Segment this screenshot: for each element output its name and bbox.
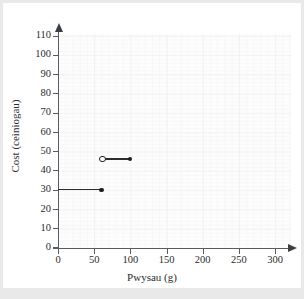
y-tick-label-10: 10 [21,223,51,234]
y-tick-label-50: 50 [21,146,51,157]
y-tick-label-80: 80 [21,88,51,99]
y-tick-label-0: 0 [21,242,51,253]
x-tick-150 [167,249,168,254]
y-tick-80 [53,93,58,94]
y-tick-label-20: 20 [21,204,51,215]
chart-screenshot: 0 10 20 30 40 50 60 70 80 90 100 110 0 5… [0,0,304,299]
y-tick-label-30: 30 [21,184,51,195]
y-tick-10 [53,228,58,229]
x-tick-label-250: 250 [219,254,259,265]
y-tick-label-70: 70 [21,107,51,118]
x-tick-label-200: 200 [183,254,223,265]
x-tick-300 [275,249,276,254]
x-tick-100 [130,249,131,254]
y-axis-arrow-icon [55,23,63,32]
y-tick-label-40: 40 [21,165,51,176]
x-tick-250 [239,249,240,254]
x-axis-title: Pwysau (g) [3,271,301,283]
y-tick-60 [53,132,58,133]
data-segment-band-1 [58,189,101,191]
y-axis-line [58,31,59,249]
x-tick-0 [58,249,59,254]
x-tick-label-0: 0 [38,254,78,265]
data-point-closed-band-1-end [99,188,103,192]
y-tick-label-100: 100 [21,49,51,60]
y-tick-110 [53,36,58,37]
x-axis-line [58,248,290,249]
x-tick-50 [94,249,95,254]
y-tick-40 [53,170,58,171]
y-tick-70 [53,113,58,114]
x-tick-label-150: 150 [147,254,187,265]
y-tick-label-60: 60 [21,127,51,138]
plot-grid [58,34,291,248]
y-tick-20 [53,209,58,210]
chart-card: 0 10 20 30 40 50 60 70 80 90 100 110 0 5… [3,3,301,288]
y-tick-label-110: 110 [21,30,51,41]
y-tick-label-90: 90 [21,69,51,80]
x-axis-arrow-icon [288,244,297,252]
data-segment-band-2 [101,158,130,160]
y-tick-90 [53,74,58,75]
x-tick-label-100: 100 [110,254,150,265]
y-tick-100 [53,55,58,56]
x-tick-200 [203,249,204,254]
x-tick-label-300: 300 [255,254,295,265]
y-axis-title: Cost (ceiniogau) [9,71,21,201]
x-tick-label-50: 50 [74,254,114,265]
data-point-open-band-2-start [99,156,105,162]
y-tick-50 [53,151,58,152]
